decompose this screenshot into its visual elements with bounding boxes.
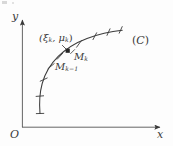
x-axis-label: x [157,129,163,140]
partition-label-mk-minus-1: Mk−1 [55,62,78,72]
partition-label-mk: Mk [74,52,88,62]
y-axis-label: y [12,11,18,22]
figure-artwork [0,0,173,146]
origin-label: O [10,129,19,140]
math-figure-line-integral: y x O (C) (ξk, μk) Mk Mk−1 [0,0,173,146]
curve-tick [36,96,44,97]
mk-subscript: k [84,55,88,62]
curve-label-close-paren: ) [145,34,149,47]
sample-point-marker [66,49,70,53]
curve-label: (C) [132,35,149,46]
curve-label-name: C [136,34,144,47]
sample-point-label: (ξk, μk) [39,33,73,43]
mk1-base: M [55,61,65,72]
sample-label-close: ) [69,32,73,43]
mk1-subscript: k−1 [65,65,78,72]
sample-label-mid: , μ [52,32,65,43]
mk-base: M [74,51,84,62]
sample-label-open: (ξ [39,32,48,43]
